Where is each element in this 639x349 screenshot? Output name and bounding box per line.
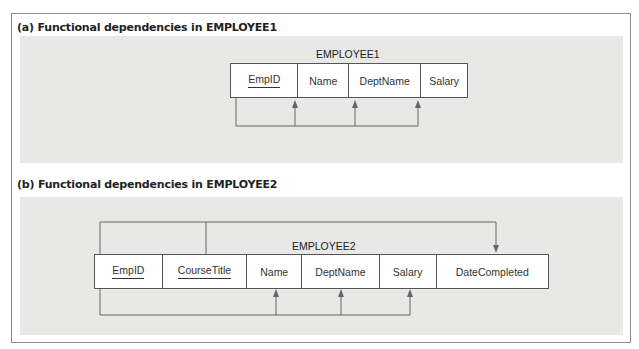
dependency-arrows-a bbox=[20, 36, 623, 163]
panel-b: EMPLOYEE2 EmpID CourseTitle Name DeptNam… bbox=[20, 197, 623, 335]
panel-a: EMPLOYEE1 EmpID Name DeptName Salary bbox=[20, 36, 623, 163]
dependency-arrows-b bbox=[20, 197, 623, 335]
caption-b: (b) Functional dependencies in EMPLOYEE2 bbox=[17, 178, 277, 191]
caption-a: (a) Functional dependencies in EMPLOYEE1 bbox=[17, 21, 277, 34]
